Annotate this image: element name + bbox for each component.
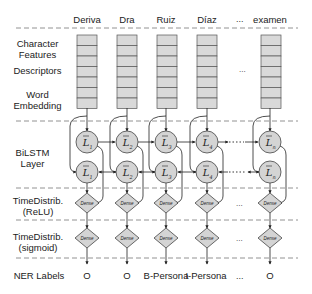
dense-relu-nodes bbox=[75, 193, 282, 213]
svg-text:Dense: Dense bbox=[120, 236, 134, 241]
svg-text:Dense: Dense bbox=[120, 201, 134, 206]
svg-text:n: n bbox=[272, 174, 275, 180]
svg-text:3: 3 bbox=[168, 174, 171, 180]
svg-text:1: 1 bbox=[89, 174, 92, 180]
lstm-nodes bbox=[76, 131, 281, 183]
feature-stack-2 bbox=[117, 35, 137, 109]
svg-text:3: 3 bbox=[168, 144, 171, 150]
bilstm-architecture-diagram: ... bbox=[0, 0, 312, 294]
svg-text:...: ... bbox=[236, 234, 243, 243]
svg-text:...: ... bbox=[236, 199, 243, 208]
svg-text:2: 2 bbox=[128, 144, 132, 150]
svg-text:Dense: Dense bbox=[263, 236, 277, 241]
svg-text:Dense: Dense bbox=[80, 201, 94, 206]
feature-stacks bbox=[77, 35, 281, 109]
feature-stack-n bbox=[261, 35, 281, 109]
svg-text:4: 4 bbox=[208, 174, 212, 180]
feature-stack-1 bbox=[77, 35, 97, 109]
svg-text:2: 2 bbox=[128, 174, 132, 180]
svg-text:Dense: Dense bbox=[200, 236, 214, 241]
svg-text:Dense: Dense bbox=[200, 201, 214, 206]
svg-text:Dense: Dense bbox=[159, 236, 173, 241]
ner-ellipsis: ... bbox=[236, 271, 244, 281]
svg-text:Dense: Dense bbox=[159, 201, 173, 206]
svg-text:4: 4 bbox=[208, 144, 212, 150]
svg-text:...: ... bbox=[239, 65, 246, 74]
svg-text:n: n bbox=[272, 144, 275, 150]
svg-text:1: 1 bbox=[89, 144, 92, 150]
ner-label-4: I-Persona bbox=[181, 270, 231, 281]
dense-sigmoid-nodes bbox=[75, 228, 282, 248]
feature-stack-4 bbox=[197, 35, 217, 109]
ner-label-n: O bbox=[245, 270, 295, 281]
svg-text:Dense: Dense bbox=[80, 236, 94, 241]
svg-text:Dense: Dense bbox=[263, 201, 277, 206]
feature-stack-3 bbox=[157, 35, 177, 109]
